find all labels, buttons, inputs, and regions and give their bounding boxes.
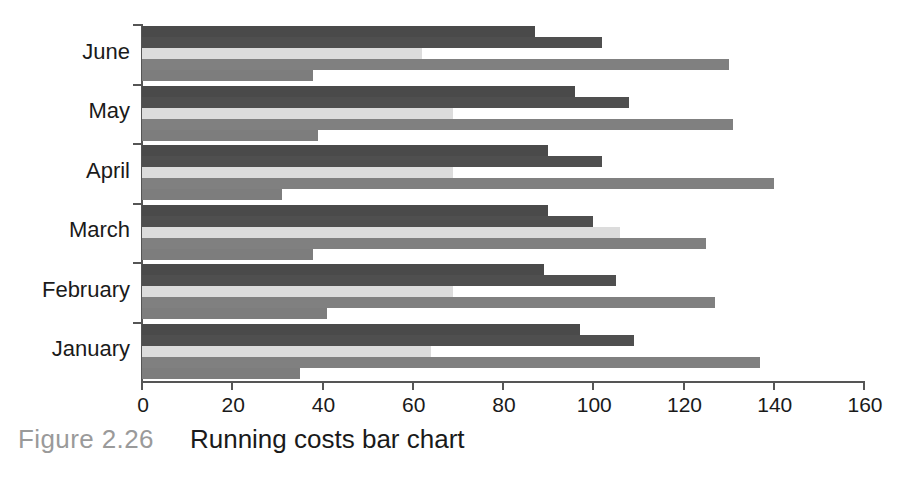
bar <box>142 357 760 368</box>
bar <box>142 324 580 335</box>
figure-caption: Figure 2.26 Running costs bar chart <box>18 424 465 455</box>
figure-page: 020406080100120140160 JuneMayAprilMarchF… <box>0 0 909 490</box>
bar <box>142 264 544 275</box>
x-axis-tick-label: 140 <box>745 393 805 417</box>
y-axis-tick <box>133 322 142 324</box>
bar <box>142 368 300 379</box>
bar <box>142 205 548 216</box>
bar <box>142 86 575 97</box>
bar <box>142 238 706 249</box>
bar <box>142 308 327 319</box>
x-axis-tick-label: 100 <box>564 393 624 417</box>
bar <box>142 297 715 308</box>
y-axis-category-label: May <box>0 98 130 124</box>
bar <box>142 145 548 156</box>
x-axis-tick <box>412 381 414 390</box>
x-axis-tick-label: 20 <box>203 393 263 417</box>
x-axis-tick <box>773 381 775 390</box>
x-axis-tick <box>141 381 143 390</box>
caption-figure-number: Figure 2.26 <box>18 424 154 455</box>
x-axis-tick <box>322 381 324 390</box>
bar <box>142 70 313 81</box>
bar <box>142 59 729 70</box>
caption-title: Running costs bar chart <box>190 424 465 455</box>
y-axis-tick <box>133 203 142 205</box>
y-axis-category-label: January <box>0 336 130 362</box>
y-axis-tick <box>133 262 142 264</box>
x-axis-tick-label: 160 <box>835 393 895 417</box>
bar <box>142 227 620 238</box>
bar <box>142 178 774 189</box>
bar <box>142 48 422 59</box>
y-axis-category-label: March <box>0 217 130 243</box>
x-axis-tick <box>502 381 504 390</box>
x-axis-tick <box>683 381 685 390</box>
x-axis-tick <box>231 381 233 390</box>
bar <box>142 346 431 357</box>
bar <box>142 216 593 227</box>
bar <box>142 97 629 108</box>
bar <box>142 189 282 200</box>
bar <box>142 130 318 141</box>
bar <box>142 156 602 167</box>
y-axis-tick <box>133 84 142 86</box>
bar <box>142 286 453 297</box>
bar <box>142 119 733 130</box>
x-axis-tick-label: 120 <box>655 393 715 417</box>
running-costs-bar-chart: 020406080100120140160 JuneMayAprilMarchF… <box>0 0 909 490</box>
bar <box>142 167 453 178</box>
y-axis-category-label: February <box>0 277 130 303</box>
x-axis-tick <box>863 381 865 390</box>
bar <box>142 335 634 346</box>
x-axis-tick-label: 60 <box>384 393 444 417</box>
bar <box>142 108 453 119</box>
bar <box>142 249 313 260</box>
x-axis-tick-label: 40 <box>294 393 354 417</box>
y-axis-tick <box>133 24 142 26</box>
x-axis-tick-label: 0 <box>113 393 173 417</box>
y-axis-category-label: June <box>0 39 130 65</box>
y-axis-tick <box>133 143 142 145</box>
bar <box>142 26 535 37</box>
x-axis-tick <box>592 381 594 390</box>
bar <box>142 275 616 286</box>
y-axis-category-label: April <box>0 158 130 184</box>
bar <box>142 37 602 48</box>
x-axis-tick-label: 80 <box>474 393 534 417</box>
